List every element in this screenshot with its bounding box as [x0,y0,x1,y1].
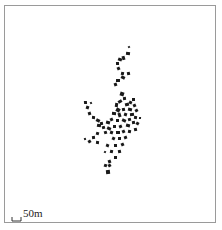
building-footprint [86,106,90,110]
building-footprint [90,102,93,105]
building-footprint [123,97,126,100]
building-footprint [107,163,111,167]
building-footprint [128,108,133,112]
building-footprint [118,99,123,104]
building-footprint [113,125,116,128]
building-footprint [121,129,125,133]
building-footprint [125,103,130,107]
building-footprint [116,79,120,82]
building-footprint [118,150,122,154]
building-footprint [121,75,126,79]
building-footprint [132,98,135,101]
building-footprint [128,46,131,49]
building-footprint [110,150,114,154]
building-footprint [132,121,135,124]
building-footprint [134,116,137,119]
building-footprint [117,67,121,71]
building-footprint [118,57,123,61]
building-footprint [114,144,117,147]
building-footprint [121,143,125,147]
building-footprint [122,108,125,111]
building-footprint [102,126,106,130]
building-footprint [106,144,110,148]
building-footprint [84,101,87,104]
building-footprint [119,125,123,129]
building-footprint [122,56,126,61]
building-footprint [110,118,114,122]
building-footprint [114,83,118,87]
building-footprint [96,132,100,136]
building-footprint [115,107,120,112]
building-footprint [115,103,119,107]
building-footprint [84,138,86,140]
building-footprint [128,118,132,122]
building-footprint [108,160,112,164]
building-footprint [118,137,121,140]
building-footprint [120,92,125,97]
building-footprint [133,104,137,108]
building-footprint [139,117,141,119]
building-footprint [96,141,99,144]
building-footprint [87,139,91,143]
building-footprint [116,119,119,122]
building-footprint [134,108,138,112]
building-footprint [124,113,128,117]
building-footprint [106,170,110,174]
building-footprint [114,156,117,159]
building-footprint [92,136,95,139]
building-footprint [129,101,133,105]
scale-bar-label: 50m [23,208,43,219]
building-footprint [110,131,114,135]
building-footprint [122,118,127,122]
building-footprint [130,113,134,116]
building-footprint [104,164,108,168]
building-cluster [84,46,141,175]
building-footprint [126,124,131,128]
building-footprint [112,137,116,141]
building-footprint [116,62,119,65]
building-footprint [96,118,101,123]
building-footprint [127,72,131,76]
building-footprint [107,126,112,130]
building-footprint [124,136,128,140]
building-footprint [106,121,111,125]
building-footprint-map [0,0,222,230]
building-footprint [112,112,116,115]
building-footprint [104,131,108,135]
building-footprint [104,151,107,154]
building-footprint [116,131,120,134]
building-footprint [128,130,132,134]
building-footprint [117,113,121,118]
building-footprint [121,72,125,76]
building-footprint [92,116,95,119]
building-footprint [134,128,138,132]
building-footprint [135,121,139,125]
building-footprint [126,52,130,55]
scale-bar-icon [12,217,21,221]
building-footprint [88,112,92,116]
